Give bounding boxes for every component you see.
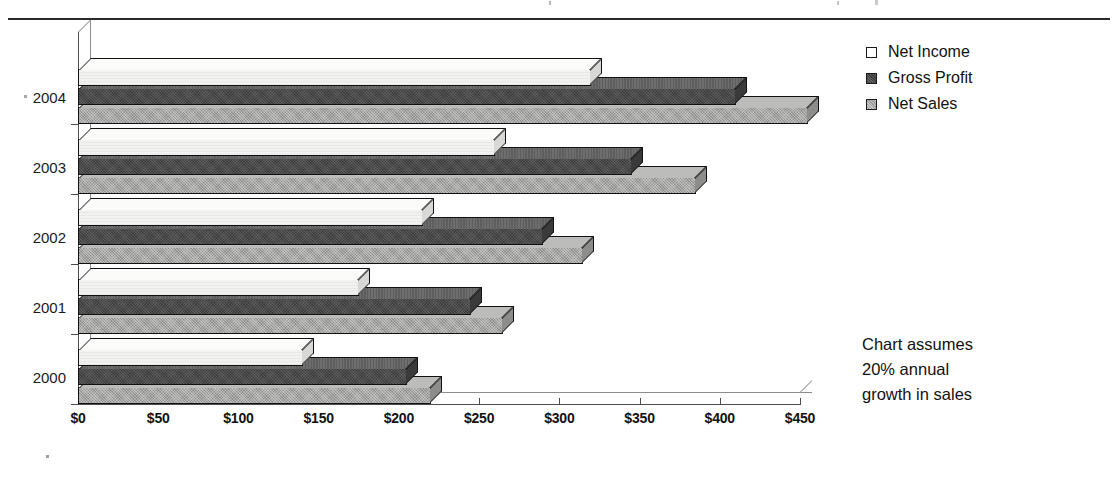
bar-front-face — [79, 159, 631, 174]
x-axis-line — [78, 404, 800, 405]
y-axis-tick — [71, 124, 78, 125]
y-axis-label-2003: 2003 — [8, 159, 66, 176]
y-axis-tick — [71, 264, 78, 265]
legend-swatch-net-income-icon — [866, 47, 877, 58]
bar-front-face — [79, 248, 582, 263]
legend-item-net-sales[interactable]: Net Sales — [866, 92, 1076, 116]
bar-front-face — [79, 299, 470, 314]
bar-top-face — [79, 58, 602, 70]
chart-legend: Net Income Gross Profit Net Sales — [866, 40, 1076, 118]
y-axis-label-2002: 2002 — [8, 229, 66, 246]
legend-label-net-income: Net Income — [888, 43, 970, 61]
x-axis-tick-label: $350 — [624, 410, 654, 426]
x-axis-tick-label: $150 — [303, 410, 333, 426]
bar-net-income-2000 — [78, 349, 303, 366]
x-axis-tick-label: $200 — [384, 410, 414, 426]
y-axis-label-2001: 2001 — [8, 299, 66, 316]
x-axis-tick-label: $300 — [544, 410, 574, 426]
bar-front-face — [79, 369, 406, 384]
bar-top-face — [79, 338, 314, 350]
bar-front-face — [79, 108, 807, 123]
scan-artifact-speck — [837, 1, 839, 5]
top-horizontal-rule — [8, 18, 1110, 20]
x-axis-tick — [800, 398, 801, 405]
bar-front-face — [79, 280, 358, 295]
legend-label-gross-profit: Gross Profit — [888, 69, 972, 87]
x-axis-tick-label: $400 — [705, 410, 735, 426]
bar-front-face — [79, 350, 302, 365]
bar-gross-profit-2001 — [78, 298, 471, 315]
bar-gross-profit-2002 — [78, 228, 543, 245]
x-axis-tick-label: $50 — [147, 410, 170, 426]
bar-gross-profit-2003 — [78, 158, 632, 175]
legend-swatch-gross-profit-icon — [866, 73, 877, 84]
bar-net-sales-2003 — [78, 177, 696, 194]
bar-net-income-2003 — [78, 139, 495, 156]
y-axis-tick — [71, 404, 78, 405]
bar-front-face — [79, 318, 502, 333]
y-axis-label-2004: 2004 — [8, 89, 66, 106]
bar-series-group — [0, 24, 860, 424]
scan-artifact-speck — [549, 1, 551, 5]
bar-top-face — [79, 128, 506, 140]
x-axis-tick — [720, 398, 721, 405]
x-axis-tick-label: $100 — [223, 410, 253, 426]
bar-net-income-2001 — [78, 279, 359, 296]
bar-gross-profit-2000 — [78, 368, 407, 385]
bar-net-sales-2002 — [78, 247, 583, 264]
scan-artifact-speck — [875, 0, 878, 5]
chart-plot-area: $0$50$100$150$200$250$300$350$400$450 20… — [0, 24, 860, 424]
x-axis-tick-label: $450 — [785, 410, 815, 426]
bar-net-income-2004 — [78, 69, 591, 86]
legend-label-net-sales: Net Sales — [888, 95, 957, 113]
bar-top-face — [79, 268, 370, 280]
bar-net-sales-2000 — [78, 387, 431, 404]
bar-top-face — [79, 198, 434, 210]
legend-item-net-income[interactable]: Net Income — [866, 40, 1076, 64]
scan-artifact-speck — [46, 455, 49, 458]
bar-net-income-2002 — [78, 209, 423, 226]
bar-net-sales-2001 — [78, 317, 503, 334]
y-axis-category-labels: 20042003200220012000 — [0, 24, 66, 424]
y-axis-tick — [71, 194, 78, 195]
chart-page: $0$50$100$150$200$250$300$350$400$450 20… — [0, 0, 1118, 486]
bar-front-face — [79, 178, 695, 193]
bar-front-face — [79, 210, 422, 225]
bar-front-face — [79, 70, 590, 85]
chart-annotation: Chart assumes 20% annual growth in sales — [862, 332, 1092, 407]
x-axis-tick-label: $250 — [464, 410, 494, 426]
bar-front-face — [79, 229, 542, 244]
x-axis-tick — [559, 398, 560, 405]
annotation-line-3: growth in sales — [862, 382, 1092, 407]
bar-front-face — [79, 388, 430, 403]
x-axis-tick — [479, 398, 480, 405]
annotation-line-2: 20% annual — [862, 357, 1092, 382]
annotation-line-1: Chart assumes — [862, 332, 1092, 357]
legend-item-gross-profit[interactable]: Gross Profit — [866, 66, 1076, 90]
x-axis-tick — [640, 398, 641, 405]
bar-front-face — [79, 89, 735, 104]
x-axis-tick-label: $0 — [70, 410, 85, 426]
legend-swatch-net-sales-icon — [866, 99, 877, 110]
bar-front-face — [79, 140, 494, 155]
y-axis-label-2000: 2000 — [8, 369, 66, 386]
bar-net-sales-2004 — [78, 107, 808, 124]
bar-gross-profit-2004 — [78, 88, 736, 105]
y-axis-tick — [71, 334, 78, 335]
